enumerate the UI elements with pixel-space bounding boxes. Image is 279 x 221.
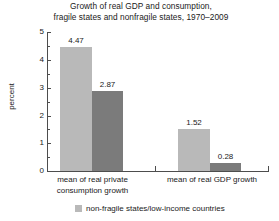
bar-group1-series1 <box>60 47 92 171</box>
legend-swatch-icon <box>75 205 82 212</box>
chart-title: Growth of real GDP and consumption, frag… <box>34 1 248 23</box>
bar-group2-series1 <box>178 129 210 171</box>
bar-value-group1-series1: 4.47 <box>60 37 92 45</box>
x-axis-separator-tick-2 <box>268 166 269 172</box>
chart-title-line-1: Growth of real GDP and consumption, <box>34 1 248 12</box>
bars-layer <box>0 32 279 171</box>
chart-title-line-2: fragile states and nonfragile states, 19… <box>34 12 248 23</box>
bar-value-group2-series2: 0.28 <box>210 153 241 161</box>
category-1-line-2: consumption growth <box>50 186 135 197</box>
bar-group2-series2 <box>210 163 241 171</box>
legend-label-1: non-fragile states/low-income countries <box>86 204 225 213</box>
chart-legend: non-fragile states/low-income countries <box>75 204 225 213</box>
x-axis-category-label-2: mean of real GDP growth <box>154 175 270 186</box>
chart-container: Growth of real GDP and consumption, frag… <box>0 0 279 221</box>
category-2-line-1: mean of real GDP growth <box>154 175 270 186</box>
x-axis-separator-tick-1 <box>155 166 156 172</box>
bar-value-group1-series2: 2.87 <box>92 81 123 89</box>
x-axis-category-label-1: mean of real private consumption growth <box>50 175 135 196</box>
x-axis-line <box>47 171 269 172</box>
bar-value-group2-series1: 1.52 <box>178 119 210 127</box>
y-tick-0 <box>47 171 51 172</box>
bar-group1-series2 <box>92 91 123 171</box>
category-1-line-1: mean of real private <box>50 175 135 186</box>
